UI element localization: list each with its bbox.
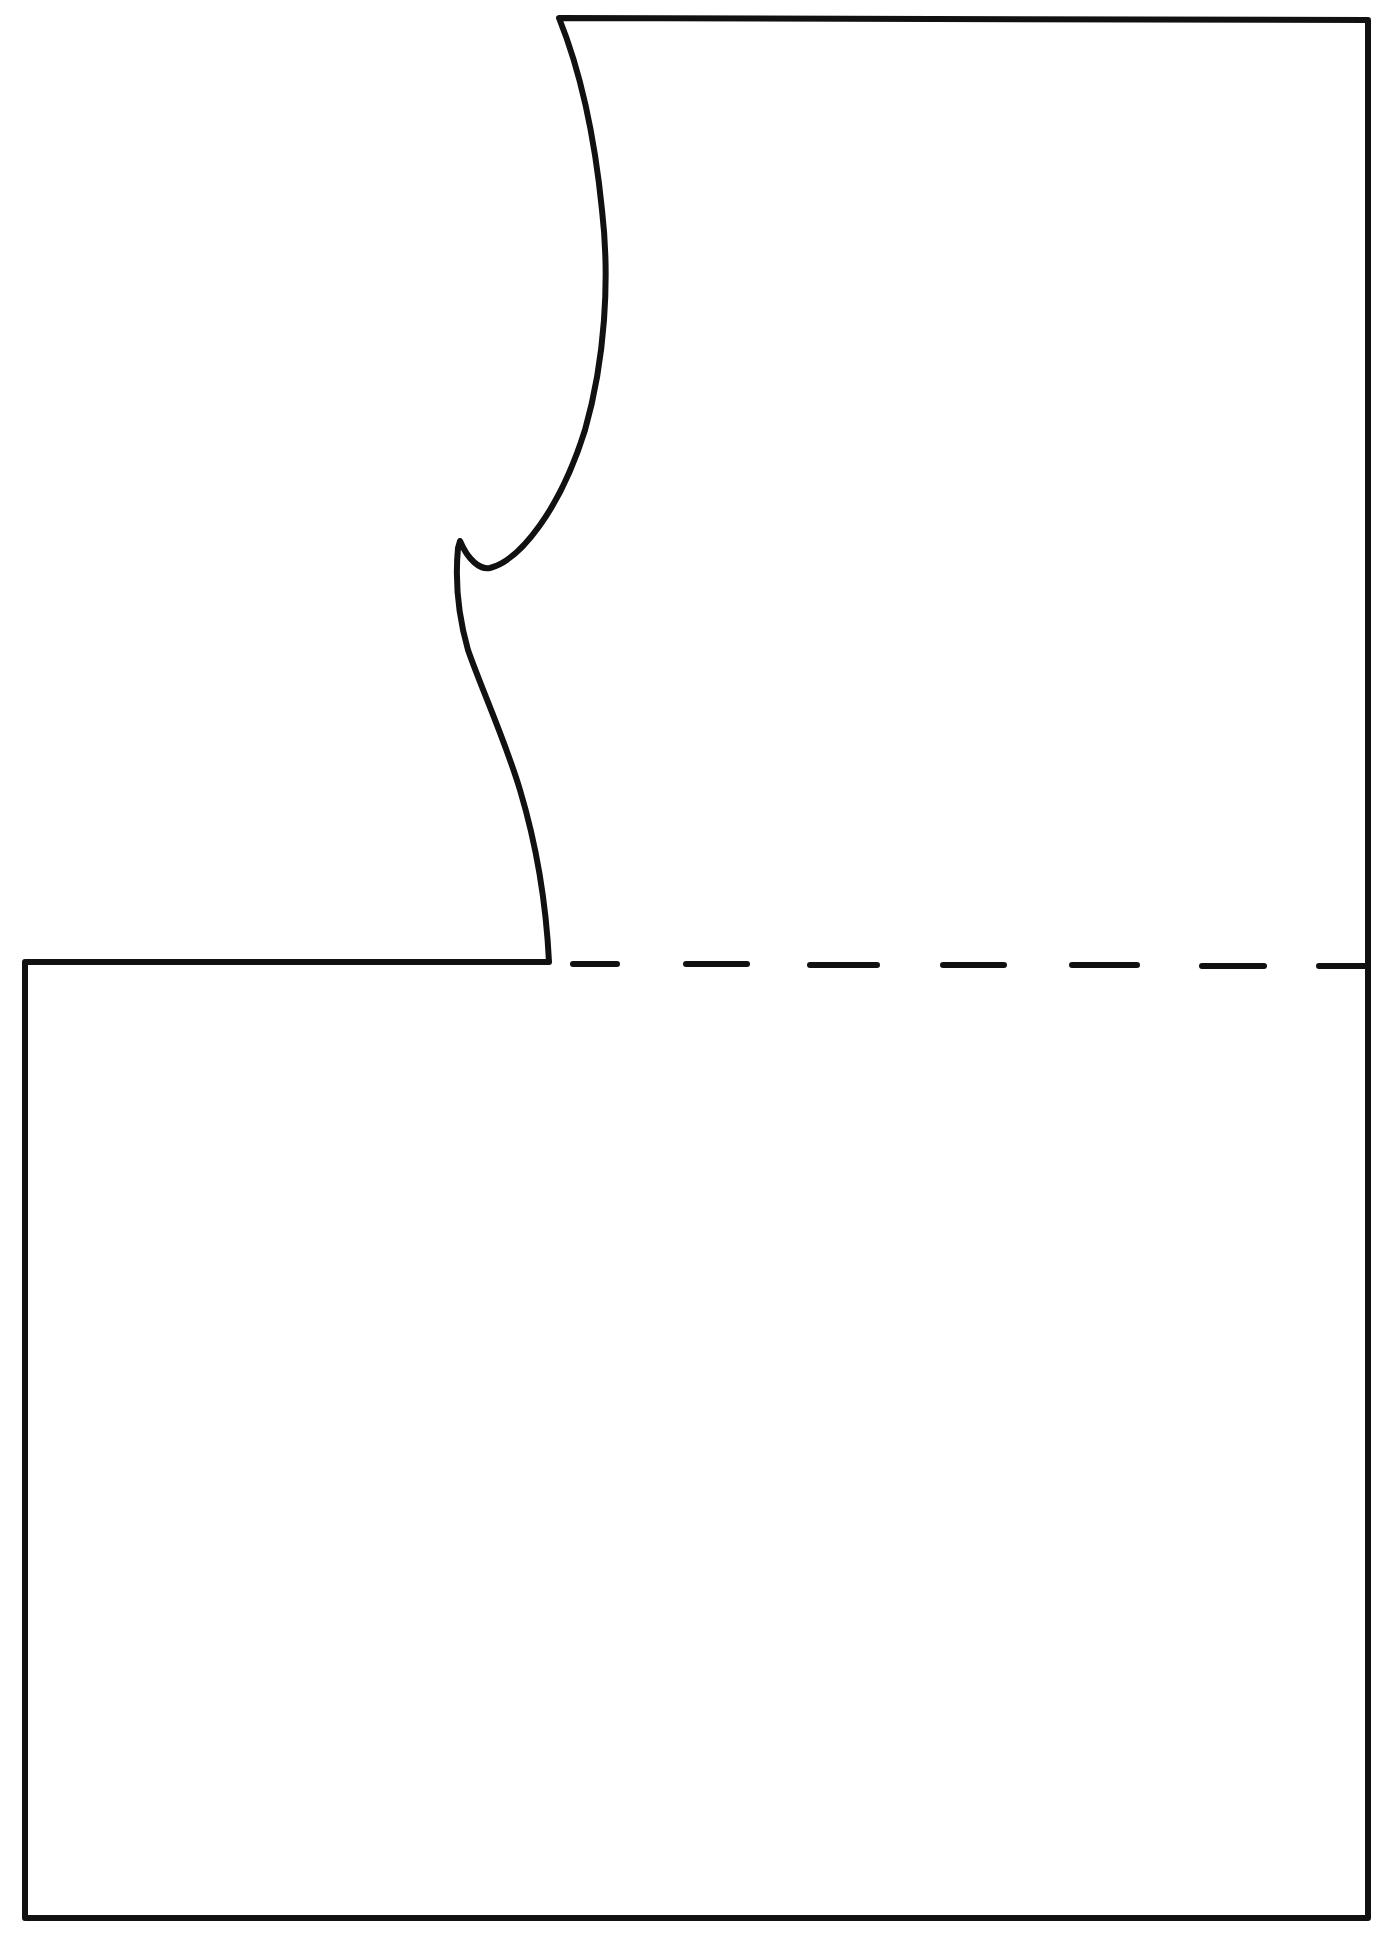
pattern-diagram: [0, 0, 1391, 1946]
dashed-fold-line: [573, 964, 1366, 966]
background: [0, 0, 1391, 1946]
